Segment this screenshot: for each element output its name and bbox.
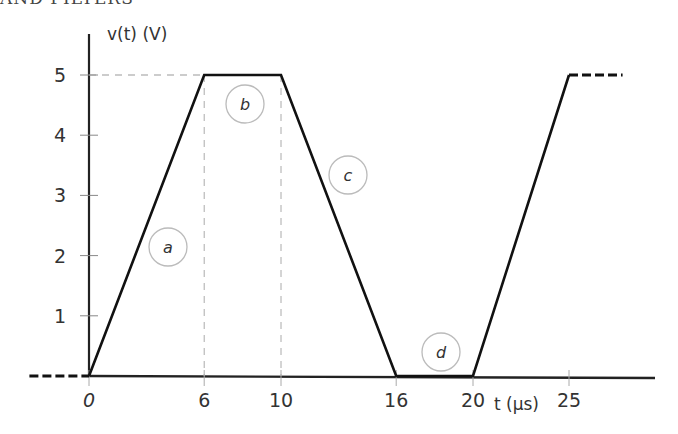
x-tick-label: 10: [269, 389, 293, 411]
region-labels: abcd: [149, 85, 460, 371]
x-tick-label: 0: [83, 389, 95, 411]
y-tick-label: 2: [54, 245, 66, 267]
x-tick-label: 20: [461, 389, 485, 411]
x-axis-line: [89, 376, 655, 378]
region-label-b: b: [240, 95, 250, 114]
y-tick-label: 1: [54, 305, 66, 327]
region-label-d: d: [436, 343, 447, 362]
tick-labels: 123450610162025: [54, 64, 581, 411]
y-tick-label: 5: [54, 64, 66, 86]
y-tick-label: 3: [54, 184, 66, 206]
voltage-waveform-chart: 123450610162025 abcd v(t) (V) t (μs): [0, 0, 678, 434]
x-tick-label: 6: [198, 389, 210, 411]
axes: [80, 34, 655, 386]
region-label-a: a: [163, 238, 173, 257]
waveform: [29, 75, 622, 376]
waveform-line: [89, 75, 569, 376]
y-tick-label: 4: [54, 124, 66, 146]
x-tick-label: 16: [384, 389, 408, 411]
x-axis-title: t (μs): [494, 394, 539, 414]
y-axis-title: v(t) (V): [107, 24, 167, 44]
x-tick-label: 25: [557, 389, 581, 411]
region-label-c: c: [344, 166, 353, 185]
